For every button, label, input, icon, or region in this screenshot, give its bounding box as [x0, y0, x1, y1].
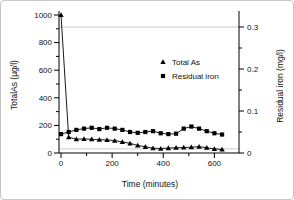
right-tick-label: 0	[247, 149, 252, 158]
legend: Total AsResidual iron	[160, 58, 218, 81]
square-marker	[182, 127, 186, 131]
x-tick-label: 400	[157, 159, 171, 168]
triangle-marker	[66, 134, 71, 139]
square-marker	[128, 130, 132, 134]
square-marker	[197, 127, 201, 131]
square-marker	[143, 130, 147, 134]
square-marker	[67, 130, 71, 134]
square-marker	[82, 127, 86, 131]
square-marker	[159, 131, 163, 135]
x-tick-label: 200	[105, 159, 119, 168]
right-axis-title: Residual iron (mg/l)	[275, 49, 285, 123]
square-marker	[151, 129, 155, 133]
square-marker	[220, 132, 224, 136]
data-series	[58, 12, 224, 151]
square-marker	[205, 129, 209, 133]
square-marker	[97, 127, 101, 131]
square-marker	[174, 132, 178, 136]
left-axis-title: TotalAs (µg/l)	[9, 60, 19, 110]
legend-triangle-marker	[160, 59, 165, 64]
x-tick-label: 0	[59, 159, 64, 168]
legend-label-residual-iron: Residual iron	[172, 72, 219, 81]
left-tick-label: 400	[39, 94, 53, 103]
right-tick-label: 0.1	[247, 107, 259, 116]
square-marker	[120, 128, 124, 132]
square-marker	[59, 132, 63, 136]
left-tick-label: 1000	[34, 11, 52, 20]
square-marker	[74, 128, 78, 132]
square-marker	[136, 131, 140, 135]
axes	[54, 11, 244, 158]
square-marker	[90, 126, 94, 130]
square-marker	[212, 131, 216, 135]
square-marker	[105, 126, 109, 130]
right-tick-label: 0.2	[247, 65, 259, 74]
left-tick-label: 0	[48, 149, 53, 158]
tick-labels: 0200400600800100000.10.20.30200400600	[34, 11, 258, 168]
left-tick-label: 200	[39, 121, 53, 130]
legend-square-marker	[161, 74, 165, 78]
series-residual-iron	[59, 124, 224, 136]
square-marker	[113, 127, 117, 131]
left-tick-label: 800	[39, 38, 53, 47]
left-tick-label: 600	[39, 66, 53, 75]
square-marker	[166, 132, 170, 136]
legend-label-total-as: Total As	[172, 58, 200, 67]
x-tick-label: 600	[208, 159, 222, 168]
x-axis-title: Time (minutes)	[122, 179, 179, 189]
right-tick-label: 0.3	[247, 23, 259, 32]
chart-canvas: 0200400600800100000.10.20.30200400600 Ti…	[1, 1, 294, 200]
chart-figure: 0200400600800100000.10.20.30200400600 Ti…	[0, 0, 294, 200]
square-marker	[189, 124, 193, 128]
